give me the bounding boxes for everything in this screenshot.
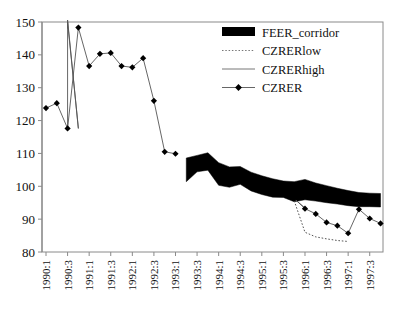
svg-text:1990:1: 1990:1 [40, 260, 52, 291]
svg-text:1992:3: 1992:3 [148, 260, 160, 291]
svg-text:FEER_corridor: FEER_corridor [262, 26, 340, 40]
svg-text:1994:1: 1994:1 [213, 260, 225, 291]
svg-text:1991:1: 1991:1 [83, 260, 95, 291]
svg-text:130: 130 [16, 80, 36, 95]
svg-text:1997:3: 1997:3 [364, 260, 376, 291]
svg-text:1997:1: 1997:1 [342, 260, 354, 291]
svg-text:150: 150 [16, 15, 36, 30]
svg-text:1995:1: 1995:1 [256, 260, 268, 291]
svg-text:1991:3: 1991:3 [105, 260, 117, 291]
czrer-markers [43, 24, 384, 236]
svg-text:1994:3: 1994:3 [234, 260, 246, 291]
svg-text:1990:3: 1990:3 [62, 260, 74, 291]
plot-frame [42, 22, 383, 252]
svg-text:90: 90 [22, 212, 35, 227]
feer-corridor-band [186, 153, 380, 207]
svg-text:CZRER: CZRER [262, 81, 303, 95]
svg-text:1992:1: 1992:1 [126, 260, 138, 291]
svg-text:CZRERhigh: CZRERhigh [262, 63, 325, 77]
svg-text:120: 120 [16, 113, 36, 128]
svg-text:140: 140 [16, 47, 36, 62]
svg-text:1993:3: 1993:3 [191, 260, 203, 291]
chart-canvas: 8090100110120130140150 1990:11990:31991:… [0, 0, 404, 309]
svg-text:1996:3: 1996:3 [321, 260, 333, 291]
svg-text:1993:1: 1993:1 [169, 260, 181, 291]
svg-text:CZRERlow: CZRERlow [262, 44, 321, 58]
svg-text:100: 100 [16, 179, 36, 194]
y-axis-labels: 8090100110120130140150 [16, 15, 36, 260]
svg-text:80: 80 [22, 245, 35, 260]
czrerlow-line [294, 201, 348, 242]
chart-legend: FEER_corridorCZRERlowCZRERhighCZRER [222, 26, 340, 96]
x-axis-labels: 1990:11990:31991:11991:31992:11992:31993… [40, 252, 376, 291]
chart-container: 8090100110120130140150 1990:11990:31991:… [0, 0, 404, 309]
svg-text:1995:3: 1995:3 [277, 260, 289, 291]
svg-text:1996:1: 1996:1 [299, 260, 311, 291]
svg-text:110: 110 [16, 146, 35, 161]
